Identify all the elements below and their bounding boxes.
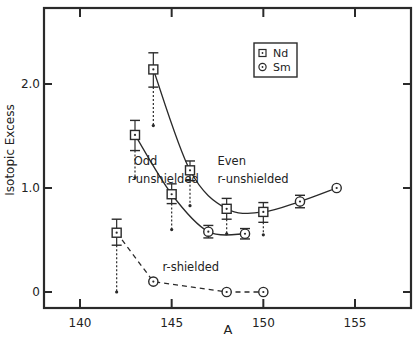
marker-center-dot bbox=[226, 208, 228, 210]
marker-center-dot bbox=[299, 200, 301, 202]
marker-center-dot bbox=[226, 291, 228, 293]
legend-icon-dot bbox=[262, 52, 264, 54]
marker-center-dot bbox=[207, 231, 209, 233]
annotation-label: r-unshielded bbox=[128, 172, 199, 186]
annotation-label: r-shielded bbox=[163, 260, 220, 274]
x-tick-label: 155 bbox=[344, 316, 367, 330]
y-tick-label: 0 bbox=[32, 285, 40, 299]
legend-label: Nd bbox=[273, 47, 288, 60]
y-tick-label: 2.0 bbox=[21, 77, 40, 91]
marker-center-dot bbox=[116, 232, 118, 234]
x-tick-label: 145 bbox=[160, 316, 183, 330]
marker-center-dot bbox=[171, 193, 173, 195]
lower-limit-dot bbox=[262, 233, 265, 236]
x-tick-label: 140 bbox=[69, 316, 92, 330]
axis-ticks: 14014515015501.02.0 bbox=[21, 8, 411, 330]
chart-canvas: 14014515015501.02.0 Oddr-unshieldedEvenr… bbox=[0, 0, 420, 344]
marker-center-dot bbox=[244, 233, 246, 235]
y-axis-label: Isotopic Excess bbox=[3, 104, 17, 196]
lower-limit-dot bbox=[170, 228, 173, 231]
marker-center-dot bbox=[262, 291, 264, 293]
lower-limit-dot bbox=[152, 124, 155, 127]
lower-limit-dot bbox=[115, 290, 118, 293]
legend-icon-dot bbox=[262, 66, 264, 68]
annotation-label: r-unshielded bbox=[218, 172, 289, 186]
x-tick-label: 150 bbox=[252, 316, 275, 330]
annotation-label: Odd bbox=[134, 154, 158, 168]
curve-even-r-unshielded bbox=[153, 69, 336, 213]
annotation-label: Even bbox=[218, 154, 246, 168]
series-sm bbox=[149, 183, 342, 296]
marker-center-dot bbox=[262, 211, 264, 213]
lower-limit-dot bbox=[225, 232, 228, 235]
marker-center-dot bbox=[152, 281, 154, 283]
legend-label: Sm bbox=[273, 61, 291, 74]
y-tick-label: 1.0 bbox=[21, 181, 40, 195]
marker-center-dot bbox=[336, 187, 338, 189]
legend: NdSm bbox=[254, 43, 297, 77]
lower-limit-dot bbox=[188, 204, 191, 207]
x-axis-label: A bbox=[224, 322, 233, 337]
marker-center-dot bbox=[134, 134, 136, 136]
marker-center-dot bbox=[152, 68, 154, 70]
